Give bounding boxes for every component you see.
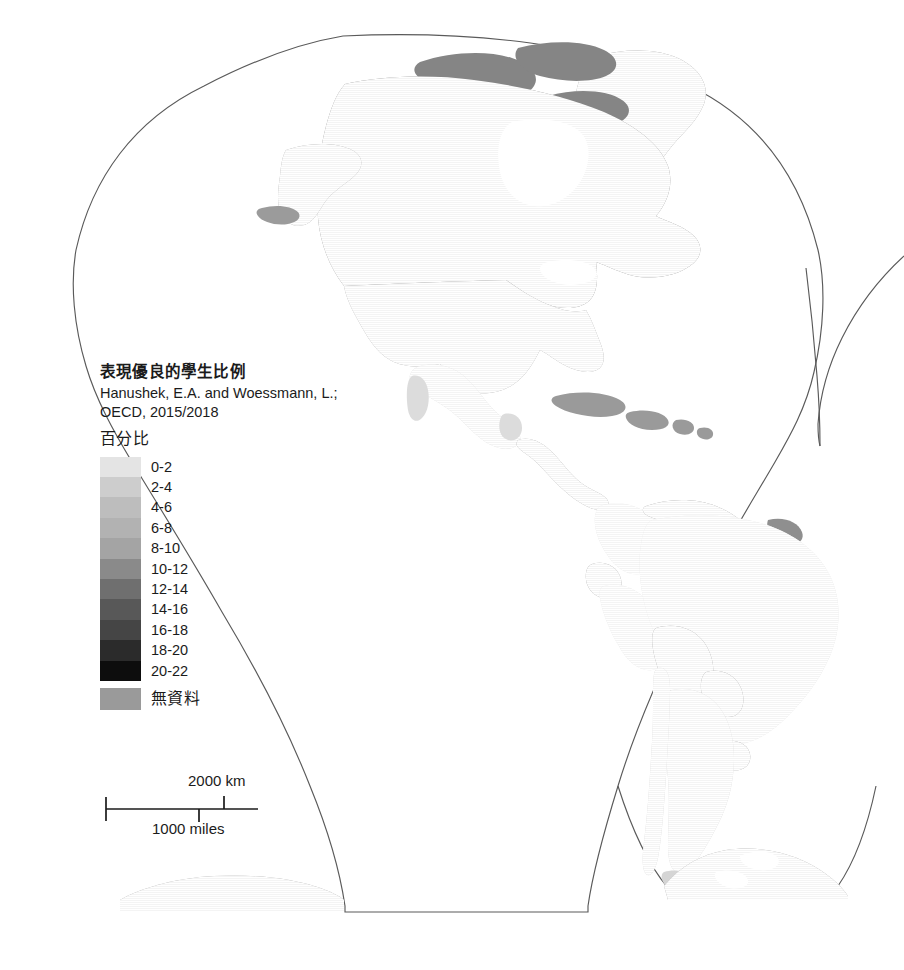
legend-class-row[interactable]: 14-16 <box>100 599 350 619</box>
scalebar-km-label: 2000 km <box>188 772 246 789</box>
legend-class-swatch <box>100 620 141 640</box>
legend-class-swatch <box>100 538 141 558</box>
legend-class-row[interactable]: 0-2 <box>100 457 350 477</box>
legend-class-label: 8-10 <box>151 541 180 556</box>
scalebar-miles-label: 1000 miles <box>152 820 225 837</box>
legend-class-row[interactable]: 2-4 <box>100 477 350 497</box>
legend-class-row[interactable]: 16-18 <box>100 620 350 640</box>
map-scalebar: 2000 km 1000 miles <box>100 772 360 842</box>
legend-class-row[interactable]: 8-10 <box>100 538 350 558</box>
legend-class-swatch <box>100 579 141 599</box>
legend-class-swatch <box>100 599 141 619</box>
legend-class-row[interactable]: 18-20 <box>100 640 350 660</box>
legend-source-citation: Hanushek, E.A. and Woessmann, L.; OECD, … <box>100 384 338 422</box>
legend-class-label: 2-4 <box>151 480 172 495</box>
legend-class-row[interactable]: 4-6 <box>100 497 350 517</box>
legend-units-label: 百分比 <box>100 429 350 448</box>
legend-class-swatch <box>100 518 141 538</box>
legend-no-data-label: 無資料 <box>151 691 200 707</box>
legend-class-swatch <box>100 497 141 517</box>
map-page: 表現優良的學生比例 Hanushek, E.A. and Woessmann, … <box>0 0 904 970</box>
legend-class-swatch <box>100 661 141 681</box>
legend-color-ramp: 0-22-44-66-88-1010-1212-1414-1616-1818-2… <box>100 457 350 681</box>
legend-class-label: 20-22 <box>151 664 188 679</box>
legend-class-label: 16-18 <box>151 623 188 638</box>
legend-class-row[interactable]: 6-8 <box>100 518 350 538</box>
legend-no-data-swatch <box>100 688 141 710</box>
legend-class-swatch <box>100 457 141 477</box>
legend-class-label: 0-2 <box>151 460 172 475</box>
legend-class-label: 6-8 <box>151 521 172 536</box>
legend-class-label: 14-16 <box>151 602 188 617</box>
legend-class-label: 12-14 <box>151 582 188 597</box>
legend-class-swatch <box>100 559 141 579</box>
legend-class-row[interactable]: 20-22 <box>100 661 350 681</box>
legend-class-row[interactable]: 12-14 <box>100 579 350 599</box>
legend-no-data-row[interactable]: 無資料 <box>100 688 350 710</box>
legend-class-swatch <box>100 477 141 497</box>
map-legend: 表現優良的學生比例 Hanushek, E.A. and Woessmann, … <box>100 362 350 710</box>
legend-class-row[interactable]: 10-12 <box>100 559 350 579</box>
legend-class-label: 4-6 <box>151 500 172 515</box>
legend-title: 表現優良的學生比例 <box>100 362 350 382</box>
legend-class-swatch <box>100 640 141 660</box>
legend-class-label: 18-20 <box>151 643 188 658</box>
legend-class-label: 10-12 <box>151 562 188 577</box>
